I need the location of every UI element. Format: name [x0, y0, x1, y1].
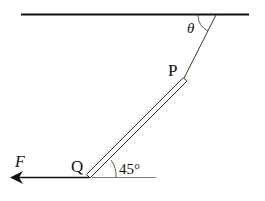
point-q-label: Q	[71, 157, 83, 176]
angle-45-label: 45°	[119, 161, 140, 177]
rod-angle-arc	[111, 160, 116, 178]
force-label: F	[14, 153, 25, 170]
point-p-label: P	[168, 61, 177, 80]
physics-diagram: θ P Q F 45°	[0, 0, 265, 201]
theta-angle-arc	[198, 15, 208, 31]
theta-label: θ	[187, 20, 195, 36]
